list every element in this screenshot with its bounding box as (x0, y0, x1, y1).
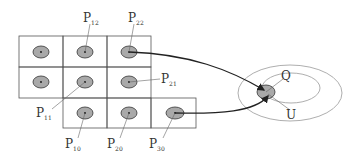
label-p12: P12 (83, 11, 99, 26)
label-p22: P22 (128, 11, 144, 26)
blob-centers (40, 51, 176, 114)
label-p20: P20 (107, 137, 123, 152)
diagram-svg: P12 P22 P21 P11 P10 P20 P30 Q U (0, 0, 361, 159)
label-p30: P30 (149, 137, 165, 152)
label-p11: P11 (36, 106, 52, 121)
label-p10: P10 (65, 137, 81, 152)
label-u: U (286, 108, 296, 122)
label-q: Q (281, 69, 291, 83)
arrow-p22-to-q (129, 52, 264, 90)
arrow-p30-to-q (175, 96, 268, 113)
label-p21: P21 (161, 72, 177, 87)
diagram-canvas: P12 P22 P21 P11 P10 P20 P30 Q U (0, 0, 361, 159)
